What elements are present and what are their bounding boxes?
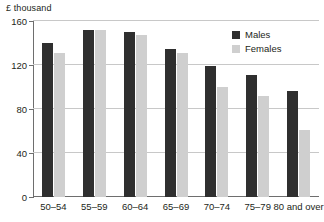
bar-group xyxy=(83,21,106,197)
y-tick-mark xyxy=(29,21,33,22)
x-tick-label: 75–79 xyxy=(244,201,270,212)
bar-group xyxy=(124,21,147,197)
bar-males-6 xyxy=(287,91,298,197)
legend-swatch-icon xyxy=(232,45,240,53)
bar-chart: £ thousand 04080120160 50–5455–5960–6465… xyxy=(0,0,324,222)
bar-males-0 xyxy=(42,43,53,197)
bar-males-1 xyxy=(83,30,94,197)
y-tick-mark xyxy=(29,153,33,154)
x-tick-label: 60–64 xyxy=(122,201,148,212)
bar-group xyxy=(287,21,310,197)
x-tick-label: 70–74 xyxy=(204,201,230,212)
legend-label: Females xyxy=(245,43,281,54)
y-tick-mark xyxy=(29,197,33,198)
x-tick-label: 65–69 xyxy=(163,201,189,212)
bar-group xyxy=(42,21,65,197)
y-tick-mark xyxy=(29,65,33,66)
bar-group xyxy=(165,21,188,197)
x-axis-ticks: 50–5455–5960–6465–6970–7475–7980 and ove… xyxy=(33,201,319,219)
bar-females-2 xyxy=(136,35,147,197)
bar-males-4 xyxy=(205,66,216,197)
bar-males-3 xyxy=(165,49,176,198)
x-tick-label: 50–54 xyxy=(40,201,66,212)
y-axis-ticks: 04080120160 xyxy=(0,0,27,222)
legend-item-females: Females xyxy=(232,43,281,54)
bar-females-4 xyxy=(217,87,228,197)
y-tick-label: 160 xyxy=(1,16,27,27)
bar-females-5 xyxy=(258,96,269,197)
y-tick-label: 80 xyxy=(1,104,27,115)
legend-item-males: Males xyxy=(232,29,281,40)
bar-females-1 xyxy=(95,30,106,197)
x-tick-label: 80 and over xyxy=(273,201,323,212)
y-tick-label: 40 xyxy=(1,148,27,159)
bar-group xyxy=(205,21,228,197)
y-tick-label: 0 xyxy=(1,192,27,203)
y-tick-mark xyxy=(29,109,33,110)
bar-females-0 xyxy=(54,53,65,197)
bar-males-2 xyxy=(124,32,135,197)
bar-females-3 xyxy=(177,53,188,197)
bar-males-5 xyxy=(246,75,257,197)
legend: MalesFemales xyxy=(232,29,281,57)
bar-females-6 xyxy=(299,130,310,197)
x-tick-label: 55–59 xyxy=(81,201,107,212)
legend-label: Males xyxy=(245,29,270,40)
legend-swatch-icon xyxy=(232,31,240,39)
y-tick-label: 120 xyxy=(1,60,27,71)
